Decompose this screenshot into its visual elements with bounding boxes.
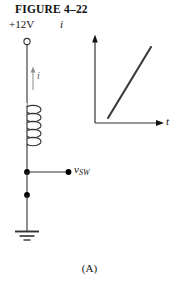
plot-y-axis-arrowhead-icon [92, 35, 98, 43]
inductor-coil-icon [16, 103, 41, 148]
figure-4-22-panel-a: FIGURE 4–22 +12V i t i vSW (A) [0, 0, 179, 284]
supply-terminal-circle-icon [24, 38, 30, 44]
ground-symbol-icon [15, 232, 39, 241]
plot-ramp-trace [108, 47, 151, 118]
node-dot-vsw-probe [66, 169, 72, 175]
figure-vector-canvas [0, 0, 179, 284]
coil-current-arrow-head-icon [31, 67, 36, 73]
plot-x-axis-arrowhead-icon [156, 120, 164, 126]
